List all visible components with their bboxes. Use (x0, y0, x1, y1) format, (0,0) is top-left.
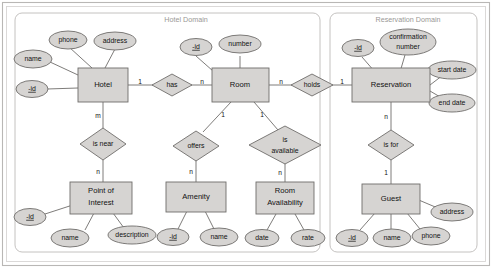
attribute-hotel-address[interactable]: address (94, 32, 136, 50)
relationship-is-available-line2: available (271, 147, 298, 154)
attribute-hotel-address-label: address (103, 37, 128, 44)
attribute-hotel-name[interactable]: name (14, 50, 52, 68)
edge-room-isavailable (254, 102, 278, 130)
edge-room-offers (203, 102, 231, 132)
attribute-guest-address[interactable]: address (431, 203, 473, 221)
attribute-poi-name-label: name (61, 234, 78, 241)
relationship-holds-label: holds (304, 81, 321, 88)
relationship-offers[interactable]: offers (173, 131, 219, 161)
relationship-has-label: has (166, 81, 178, 88)
entity-room-availability[interactable]: Room Availability (256, 182, 314, 214)
attribute-hotel-id[interactable]: -id (16, 81, 48, 98)
domain-title-reservation: Reservation Domain (375, 15, 440, 24)
attribute-guest-id[interactable]: -id (336, 230, 368, 247)
attribute-reservation-confirmation-number[interactable]: confirmation number (380, 29, 436, 55)
attribute-reservation-id-label: -id (354, 44, 362, 51)
edge-poi-description (113, 213, 124, 228)
cardinality-holds-from: n (279, 78, 283, 85)
attribute-poi-id-label: -id (26, 213, 34, 220)
edge-ra-date (267, 214, 276, 230)
attribute-reservation-confirmation-number-line1: confirmation (389, 33, 427, 40)
entity-reservation-label: Reservation (371, 80, 412, 89)
cardinality-isavailable-to: n (278, 169, 282, 176)
attribute-reservation-end-date-label: end date (439, 99, 466, 106)
entity-amenity-label: Amenity (182, 192, 210, 201)
relationship-is-near[interactable]: is near (80, 128, 126, 160)
entity-room[interactable]: Room (212, 68, 269, 102)
relationship-has[interactable]: has (152, 74, 192, 96)
attribute-ra-date-label: date (255, 234, 269, 241)
attribute-guest-address-label: address (440, 208, 465, 215)
cardinality-isavailable-from: 1 (260, 111, 264, 118)
cardinality-offers-from: 1 (221, 111, 225, 118)
relationship-is-available-line1: is (283, 136, 289, 143)
attribute-poi-id[interactable]: -id (14, 209, 46, 226)
attribute-amenity-name-label: name (210, 233, 227, 240)
attribute-amenity-name[interactable]: name (200, 228, 238, 246)
edge-amenity-name (205, 211, 214, 229)
attribute-guest-name-label: name (383, 234, 400, 241)
edge-ra-rate (295, 214, 304, 230)
edge-guest-phone (407, 213, 420, 229)
attribute-amenity-id-label: -id (169, 233, 177, 240)
cardinality-isfor-from: n (384, 113, 388, 120)
cardinality-isnear-from: m (95, 112, 101, 119)
attribute-reservation-id[interactable]: -id (342, 40, 374, 57)
edge-hotel-phone (69, 47, 92, 68)
entity-hotel[interactable]: Hotel (78, 68, 128, 102)
entity-point-of-interest-line2: Interest (88, 198, 114, 207)
cardinality-has-from: 1 (138, 78, 142, 85)
er-diagram-canvas: Hotel Domain Reservation Domain (0, 0, 492, 269)
entity-amenity[interactable]: Amenity (166, 182, 226, 212)
attribute-reservation-end-date[interactable]: end date (429, 94, 475, 112)
relationship-is-near-label: is near (93, 140, 114, 147)
attribute-guest-id-label: -id (348, 234, 356, 241)
cardinality-has-to: n (200, 78, 204, 85)
entity-guest[interactable]: Guest (362, 184, 420, 214)
entity-point-of-interest[interactable]: Point of Interest (70, 182, 132, 214)
edge-hotel-address (105, 49, 115, 68)
entity-room-availability-line2: Availability (267, 198, 303, 207)
attribute-ra-date[interactable]: date (245, 230, 279, 247)
attribute-hotel-name-label: name (24, 55, 41, 62)
relationship-is-available[interactable]: is available (249, 126, 321, 164)
attribute-room-id-label: -id (192, 43, 200, 50)
cardinality-holds-to: 1 (340, 78, 344, 85)
attribute-room-id[interactable]: -id (180, 39, 212, 56)
relationship-offers-label: offers (187, 142, 205, 149)
attribute-ra-rate-label: rate (302, 234, 314, 241)
cardinality-isnear-to: n (96, 168, 100, 175)
attribute-room-number[interactable]: number (219, 35, 261, 53)
entity-reservation[interactable]: Reservation (352, 68, 430, 102)
entity-point-of-interest-line1: Point of (88, 186, 115, 195)
attribute-amenity-id[interactable]: -id (157, 229, 189, 246)
attribute-room-number-label: number (228, 40, 252, 47)
cardinality-offers-to: n (189, 168, 193, 175)
attribute-ra-rate[interactable]: rate (291, 230, 325, 247)
attribute-poi-description[interactable]: description (108, 226, 156, 244)
attribute-hotel-id-label: -id (28, 85, 36, 92)
attribute-guest-phone-label: phone (421, 232, 440, 240)
attribute-hotel-phone-label: phone (58, 36, 77, 44)
entity-room-availability-line1: Room (275, 186, 295, 195)
attribute-guest-name[interactable]: name (373, 229, 411, 247)
edge-poi-name (85, 213, 94, 230)
edge-guest-id (360, 213, 375, 230)
relationship-holds[interactable]: holds (291, 74, 333, 96)
attribute-guest-phone[interactable]: phone (412, 227, 450, 245)
er-diagram-page: Hotel Domain Reservation Domain (0, 0, 492, 269)
relationship-is-for[interactable]: is for (368, 130, 414, 160)
attribute-poi-name[interactable]: name (51, 229, 89, 247)
attribute-hotel-phone[interactable]: phone (49, 31, 87, 49)
cardinality-isfor-to: 1 (384, 169, 388, 176)
edge-amenity-id (178, 211, 187, 229)
domain-title-hotel: Hotel Domain (164, 15, 208, 24)
attribute-reservation-start-date[interactable]: start date (428, 61, 476, 79)
entity-hotel-label: Hotel (94, 80, 112, 89)
attribute-reservation-confirmation-number-line2: number (396, 43, 420, 50)
edge-room-id (196, 56, 213, 71)
edge-hotel-name (50, 62, 78, 75)
attribute-poi-description-label: description (115, 231, 148, 239)
edge-hotel-id (47, 88, 78, 89)
relationship-is-for-label: is for (384, 141, 400, 148)
